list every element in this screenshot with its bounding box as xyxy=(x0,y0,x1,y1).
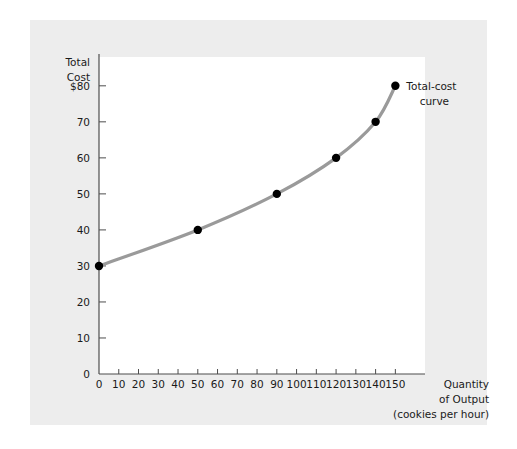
x-axis-tick-label: 20 xyxy=(132,378,145,390)
x-axis-tick-label: 80 xyxy=(250,378,263,390)
x-axis-tick-label: 50 xyxy=(191,378,204,390)
data-point-marker xyxy=(391,82,399,90)
y-axis-tick-label: 10 xyxy=(77,332,90,344)
data-point-marker xyxy=(95,262,103,270)
x-axis-tick-label: 140 xyxy=(366,378,386,390)
x-axis-tick-label: 110 xyxy=(306,378,326,390)
data-point-marker xyxy=(332,154,340,162)
x-axis-tick-label: 40 xyxy=(171,378,184,390)
total-cost-curve-label: curve xyxy=(420,95,449,107)
data-point-marker xyxy=(194,226,202,234)
x-axis-tick-label: 90 xyxy=(270,378,283,390)
x-axis-tick-label: 0 xyxy=(96,378,103,390)
x-axis-title: Quantity xyxy=(444,378,489,390)
plot-area-background xyxy=(99,57,425,374)
x-axis-tick-label: 60 xyxy=(211,378,224,390)
y-axis-tick-label: 0 xyxy=(83,368,90,380)
x-axis-tick-label: 150 xyxy=(385,378,405,390)
data-point-marker xyxy=(273,190,281,198)
chart-figure: 0102030405060708090100110120130140150010… xyxy=(0,0,517,449)
x-axis-title: of Output xyxy=(439,393,489,405)
y-axis-tick-label: 50 xyxy=(77,188,90,200)
x-axis-tick-label: 120 xyxy=(326,378,346,390)
x-axis-tick-label: 30 xyxy=(152,378,165,390)
y-axis-tick-label: 60 xyxy=(77,152,90,164)
total-cost-curve-chart: 0102030405060708090100110120130140150010… xyxy=(0,0,517,449)
y-axis-tick-label: 20 xyxy=(77,296,90,308)
x-axis-tick-label: 100 xyxy=(287,378,307,390)
x-axis-tick-label: 130 xyxy=(346,378,366,390)
x-axis-title: (cookies per hour) xyxy=(393,408,489,420)
x-axis-tick-label: 70 xyxy=(231,378,244,390)
x-axis-tick-label: 10 xyxy=(112,378,125,390)
total-cost-curve-label: Total-cost xyxy=(405,80,456,92)
y-axis-title: Cost xyxy=(67,71,90,83)
data-point-marker xyxy=(371,118,379,126)
y-axis-tick-label: 40 xyxy=(77,224,90,236)
y-axis-title: Total xyxy=(64,56,90,68)
y-axis-tick-label: 30 xyxy=(77,260,90,272)
y-axis-tick-label: 70 xyxy=(77,116,90,128)
